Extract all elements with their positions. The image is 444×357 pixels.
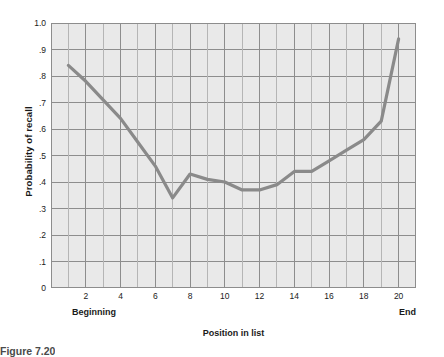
end-label: End xyxy=(399,308,416,317)
y-tick-label: .2 xyxy=(20,231,46,240)
y-tick-label: .4 xyxy=(20,178,46,187)
figure-caption: Figure 7.20 xyxy=(0,345,55,357)
y-tick-label: 1.0 xyxy=(20,19,46,28)
y-tick-label: 0 xyxy=(20,284,46,293)
y-tick-label: .3 xyxy=(20,204,46,213)
x-tick-label: 20 xyxy=(394,292,403,301)
recall-probability-line xyxy=(51,23,416,288)
x-axis-endpoint-labels: Beginning End xyxy=(51,308,416,322)
y-tick-label: .1 xyxy=(20,257,46,266)
x-tick-label: 18 xyxy=(359,292,368,301)
x-tick-label: 12 xyxy=(255,292,264,301)
x-axis-tick-labels: 2468101214161820 xyxy=(51,292,416,306)
serial-position-curve-figure: Probability of recall 1.0.9.8.7.6.5.4.3.… xyxy=(0,0,444,357)
beginning-label: Beginning xyxy=(72,308,116,317)
data-line xyxy=(68,39,398,198)
x-axis-title: Position in list xyxy=(51,328,416,338)
y-tick-label: .8 xyxy=(20,72,46,81)
plot-area xyxy=(51,23,416,288)
x-tick-label: 14 xyxy=(290,292,299,301)
y-tick-label: .9 xyxy=(20,45,46,54)
y-axis-tick-labels: 1.0.9.8.7.6.5.4.3.2.10 xyxy=(20,23,46,288)
x-tick-label: 8 xyxy=(188,292,193,301)
y-tick-label: .7 xyxy=(20,98,46,107)
x-tick-label: 6 xyxy=(153,292,158,301)
x-tick-label: 2 xyxy=(83,292,88,301)
y-tick-label: .6 xyxy=(20,125,46,134)
y-tick-label: .5 xyxy=(20,151,46,160)
x-tick-label: 10 xyxy=(220,292,229,301)
x-tick-label: 4 xyxy=(118,292,123,301)
x-tick-label: 16 xyxy=(324,292,333,301)
